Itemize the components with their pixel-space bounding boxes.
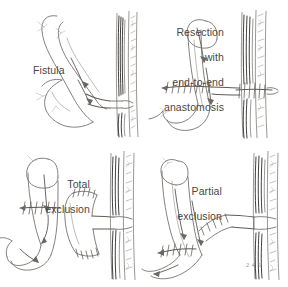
label-line-1: Resection (176, 26, 224, 38)
panel-label-partial-exclusion: Partial exclusion (142, 185, 222, 223)
label-line-2: exclusion (177, 210, 222, 222)
label-line-1: Partial (192, 185, 222, 197)
abdominal-wall (116, 11, 138, 137)
artist-signature: 2 4 5 (246, 262, 261, 268)
abdominal-wall (253, 151, 279, 280)
label-line-2: exclusion (45, 203, 90, 215)
panel-label-total-exclusion: Total exclusion (12, 178, 90, 216)
panel-fistula (0, 0, 144, 145)
figure-canvas: Fistula (0, 0, 288, 287)
label-line-4: anastomosis (164, 101, 224, 113)
panel-label-resection: Resection with end-to-end anastomosis (150, 26, 224, 114)
panel-total-exclusion (0, 145, 144, 287)
panel-label-fistula: Fistula (33, 64, 65, 77)
abdominal-wall (110, 151, 135, 280)
label-line-2: with (205, 51, 224, 63)
abdominal-wall (241, 10, 267, 138)
label-line-1: Total (67, 178, 90, 190)
label-line-3: end-to-end (172, 76, 224, 88)
